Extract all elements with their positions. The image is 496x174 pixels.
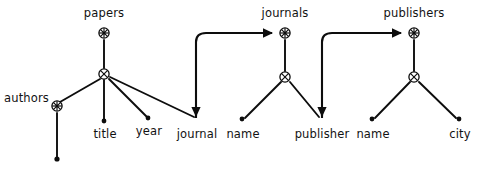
label-authors: authors [4, 92, 49, 105]
root-star-node-journals [280, 28, 290, 38]
root-star-node-publishers [409, 28, 419, 38]
label-city: city [449, 128, 470, 141]
cross-circle-node-publishers [409, 72, 419, 82]
cross-circle-node-papers [99, 69, 109, 79]
reference-arrow-journal-to-journals [196, 33, 272, 118]
label-year: year [136, 125, 162, 138]
label-journals: journals [262, 7, 309, 20]
leaf-dot-publishers-name [370, 117, 375, 122]
leaf-dot-journals-name [240, 117, 245, 122]
reference-arrow-publisher-to-publishers [322, 33, 401, 118]
edge-junction-to-jname [245, 82, 281, 118]
leaf-dot-authors-child [54, 156, 59, 161]
label-papers: papers [84, 7, 124, 20]
root-star-node-papers [99, 28, 109, 38]
schema-tree-diagram: papers journals publishers authors title… [0, 0, 496, 174]
edge-junction-to-journal [110, 77, 194, 117]
edge-junction-to-city [419, 82, 456, 118]
label-title: title [93, 128, 116, 141]
papers-tree-edges [60, 40, 194, 120]
leaf-dot-year [146, 116, 151, 121]
label-journal: journal [177, 128, 218, 141]
cross-circle-node-journals [280, 72, 290, 82]
edge-junction-to-authors [60, 79, 100, 102]
label-publisher: publisher [295, 128, 350, 141]
diagram-canvas [0, 0, 496, 174]
label-publishers-name: name [356, 128, 389, 141]
leaf-dot-title [102, 119, 107, 124]
edge-junction-to-pname [375, 82, 410, 118]
leaf-dot-city [457, 117, 462, 122]
label-publishers: publishers [384, 7, 445, 20]
root-star-node-authors [52, 101, 62, 111]
edge-junction-to-publisher [290, 82, 319, 117]
label-journals-name: name [226, 128, 259, 141]
